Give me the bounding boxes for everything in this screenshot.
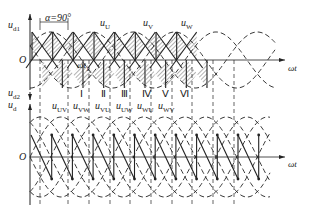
hatched-area [94, 60, 104, 88]
origin-label-top: O [19, 55, 26, 65]
hatched-area [42, 32, 52, 60]
hatched-area [197, 60, 207, 88]
commutation-dot [92, 178, 95, 181]
commutation-dot [257, 178, 260, 181]
phase-label-uV: uV [143, 18, 153, 31]
commutation-dot [154, 178, 157, 181]
x-axis-arrow-bottom-icon [279, 155, 285, 159]
x-axis-label-bottom: ωt [288, 160, 297, 169]
y-axis-label-ud: ud [8, 100, 17, 113]
hatched-area [73, 32, 83, 60]
omega-t1-label: ωt1 [77, 61, 89, 73]
commutation-dot [50, 178, 53, 181]
line-voltage-label-uUW: uUW [116, 101, 133, 114]
commutation-dot [237, 178, 240, 181]
hatched-area [42, 60, 52, 88]
y-axis-arrow-ud2-icon [28, 94, 32, 100]
line-voltage-label-uUV: uUV [52, 101, 67, 114]
hatched-area [166, 32, 176, 60]
line-voltage-label-uVW: uVW [73, 101, 90, 114]
commutation-dot [112, 178, 115, 181]
origin-label-bottom: O [19, 152, 26, 162]
hatched-area [166, 60, 176, 88]
hatched-area [135, 60, 145, 88]
line-voltage-label-uWV: uWV [158, 101, 175, 114]
x-axis-arrow-top-icon [279, 58, 285, 62]
commutation-dot [195, 178, 198, 181]
line-voltage-label-uWU: uWU [137, 101, 154, 114]
phase-label-uU: uU [100, 18, 110, 31]
hatched-area [83, 32, 93, 60]
hatched-area [156, 60, 166, 88]
commutation-dot [216, 178, 219, 181]
interval-label-4: Ⅳ [142, 89, 151, 99]
y-axis-arrow-top-icon [28, 14, 32, 20]
interval-label-2: Ⅱ [101, 89, 106, 99]
hatched-area [53, 32, 63, 60]
y-axis-arrow-bottom-icon [28, 104, 32, 110]
hatched-area [104, 32, 114, 60]
waveform-diagram [0, 0, 310, 215]
hatched-area [114, 60, 124, 88]
line-voltage-label-uVU: uVU [95, 101, 110, 114]
hatched-area [125, 32, 135, 60]
hatched-area [187, 32, 197, 60]
interval-label-5: Ⅴ [162, 89, 169, 99]
commutation-dot [175, 178, 178, 181]
phase-label-uW: uW [181, 18, 193, 31]
hatched-area [52, 60, 62, 88]
hatched-area [176, 60, 186, 88]
x-axis-label-top: ωt [288, 64, 297, 73]
commutation-dot [257, 134, 260, 137]
commutation-dot [133, 178, 136, 181]
hatched-area [135, 32, 145, 60]
y-axis-label-ud1: ud1 [8, 20, 20, 33]
commutation-dot [71, 178, 74, 181]
hatched-area [104, 60, 114, 88]
interval-label-3: Ⅲ [121, 89, 128, 99]
interval-label-6: Ⅵ [180, 89, 189, 99]
interval-label-1: Ⅰ [80, 89, 83, 99]
alpha-label: α=90° [45, 13, 71, 23]
